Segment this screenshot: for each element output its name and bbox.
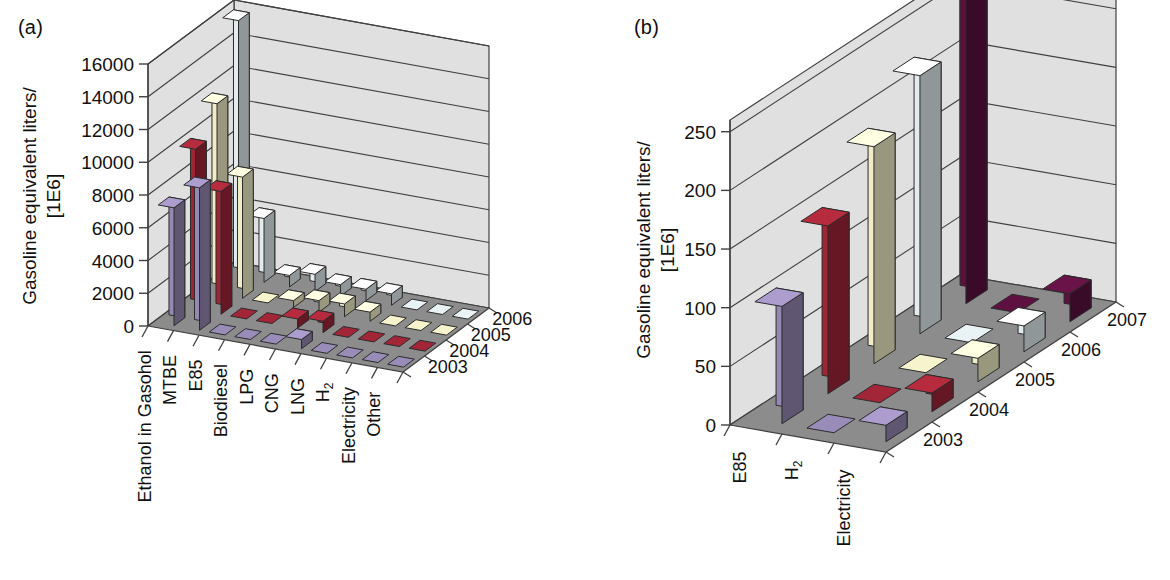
category-axis-label: H2 [313, 382, 336, 402]
depth-axis-year-label: 2004 [969, 400, 1009, 420]
y-tick-label: 14000 [81, 87, 134, 108]
category-axis-label: CNG [262, 373, 282, 413]
category-axis-label: MTBE [160, 355, 180, 405]
depth-axis-year-label: 2005 [1015, 370, 1055, 390]
y-tick-label: 250 [684, 122, 716, 143]
category-axis-label: Biodiesel [211, 364, 231, 437]
category-axis-label: Electricity [339, 387, 359, 464]
y-tick-label: 6000 [92, 218, 134, 239]
y-tick-label: 50 [695, 356, 716, 377]
y-tick-label: 8000 [92, 185, 134, 206]
depth-axis-year-label: 2007 [1107, 310, 1147, 330]
figure-canvas: (a) (b) 02000400060008000100001200014000… [0, 0, 1170, 580]
y-tick-label: 150 [684, 239, 716, 260]
category-axis-label: Electricity [834, 470, 854, 547]
category-axis-label: LPG [237, 369, 257, 405]
depth-axis-year-label: 2003 [923, 430, 963, 450]
y-tick-label: 0 [123, 316, 134, 337]
panel-b-chart: 050100150200250Gasoline equivalent liter… [610, 0, 1170, 580]
y-tick-label: 0 [705, 415, 716, 436]
category-axis-label: Other [364, 392, 384, 437]
y-axis-title: Gasoline equivalent liters/ [19, 87, 40, 305]
depth-axis-year-label: 2006 [1061, 340, 1101, 360]
category-axis-label: Ethanol in Gasohol [135, 350, 155, 502]
panel-a-chart: 0200040006000800010000120001400016000Gas… [0, 0, 620, 580]
y-tick-label: 10000 [81, 152, 134, 173]
y-axis-title: Gasoline equivalent liters/ [633, 141, 654, 359]
y-tick-label: 16000 [81, 54, 134, 75]
y-axis-title-units: [1E6] [43, 174, 64, 218]
y-tick-label: 100 [684, 298, 716, 319]
depth-axis-year-label: 2006 [492, 309, 532, 329]
y-tick-label: 4000 [92, 251, 134, 272]
category-axis-label: E85 [730, 452, 750, 484]
category-axis-label: E85 [186, 360, 206, 392]
y-tick-label: 200 [684, 180, 716, 201]
y-axis-title-units: [1E6] [657, 228, 678, 272]
category-axis-label: H2 [782, 460, 805, 480]
category-axis-label: LNG [288, 378, 308, 415]
y-tick-label: 2000 [92, 283, 134, 304]
y-tick-label: 12000 [81, 120, 134, 141]
